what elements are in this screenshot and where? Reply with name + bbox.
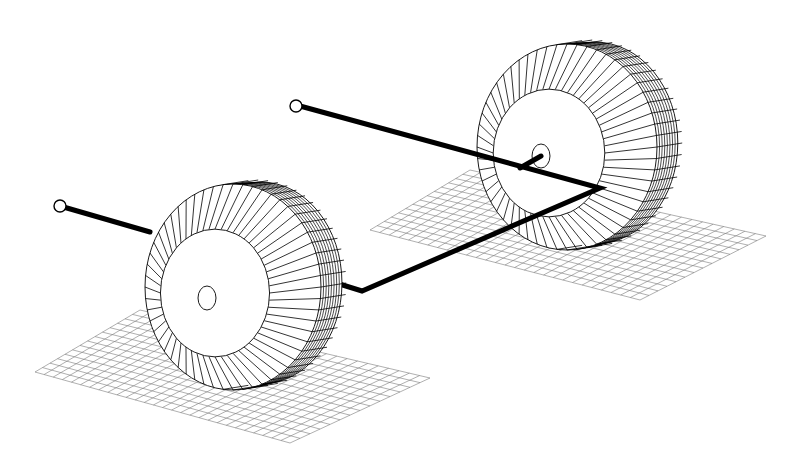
suspension-diagram [0,0,806,457]
tie-rod-left [60,206,150,232]
rear-tire [477,40,682,250]
diagram-canvas [0,0,806,457]
ball-joint-1 [54,200,66,212]
wheel-hub [198,286,216,310]
ball-joint-2 [290,100,302,112]
front-tire [145,180,346,390]
